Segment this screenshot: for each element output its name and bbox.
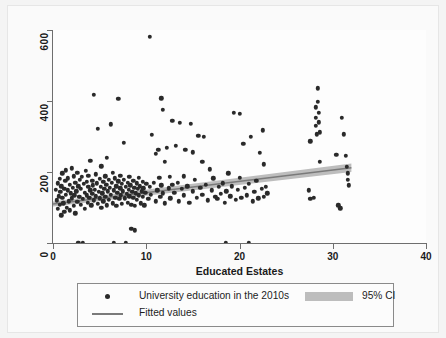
x-tick-label: 0 <box>50 251 56 262</box>
y-tick-label: 0 <box>39 243 50 267</box>
x-tick-mark <box>146 244 147 249</box>
graph-region: 0200400600 010203040 Educated Estates Un… <box>7 5 439 333</box>
chart-screenshot: 0200400600 010203040 Educated Estates Un… <box>0 0 446 338</box>
legend-point-marker-icon <box>105 294 110 299</box>
legend-label-ci: 95% CI <box>362 290 395 301</box>
x-tick-label: 40 <box>420 251 431 262</box>
legend-line-marker-icon <box>92 313 123 315</box>
y-tick-label: 600 <box>39 30 50 54</box>
plot-area <box>53 30 426 243</box>
x-tick-mark <box>426 244 427 249</box>
y-tick-label: 400 <box>39 101 50 125</box>
legend-label-points: University education in the 2010s <box>139 290 289 301</box>
x-tick-label: 10 <box>141 251 152 262</box>
x-axis-title: Educated Estates <box>53 265 426 277</box>
legend-row-fitted: Fitted values <box>78 305 393 322</box>
legend-ci-swatch-icon <box>305 292 353 301</box>
x-tick-mark <box>240 244 241 249</box>
y-axis-line <box>52 30 53 244</box>
legend: University education in the 2010s 95% CI… <box>77 283 394 327</box>
x-tick-label: 20 <box>234 251 245 262</box>
legend-row-points: University education in the 2010s 95% CI <box>78 288 393 305</box>
legend-label-fitted: Fitted values <box>139 307 197 318</box>
fitted-line <box>53 30 426 243</box>
x-tick-label: 30 <box>327 251 338 262</box>
x-tick-mark <box>53 244 54 249</box>
x-tick-mark <box>333 244 334 249</box>
y-tick-label: 200 <box>39 172 50 196</box>
